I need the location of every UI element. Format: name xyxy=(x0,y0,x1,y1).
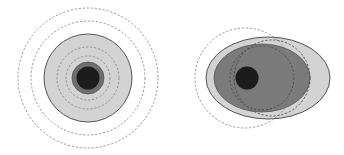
dark-core xyxy=(236,67,259,90)
offset-ellipses-figure xyxy=(195,28,330,128)
inner-ellipse xyxy=(214,44,310,112)
concentric-circles-figure xyxy=(18,8,158,148)
diagram-canvas xyxy=(0,0,344,155)
dark-core xyxy=(77,67,100,90)
